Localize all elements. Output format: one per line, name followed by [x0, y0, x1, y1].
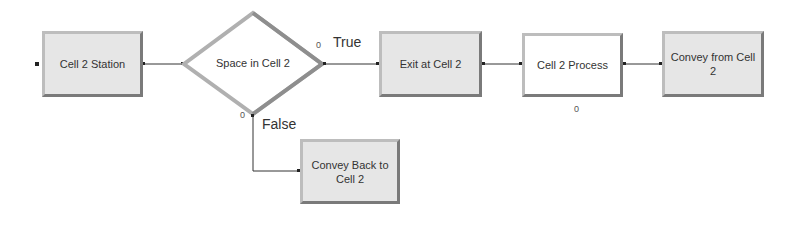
- cell-2-station-module[interactable]: Cell 2 Station: [42, 31, 143, 97]
- module-label: Exit at Cell 2: [400, 57, 462, 71]
- module-label: Cell 2 Station: [60, 57, 125, 71]
- decide-label: Space in Cell 2: [200, 57, 306, 69]
- entry-point: [35, 62, 39, 66]
- module-label: Cell 2 Process: [537, 58, 608, 72]
- exit-at-cell-2-module[interactable]: Exit at Cell 2: [379, 31, 482, 97]
- cell-2-process-module[interactable]: Cell 2 Process: [522, 33, 623, 97]
- module-label: Convey Back to Cell 2: [305, 158, 395, 186]
- process-count: 0: [574, 104, 579, 114]
- convey-from-cell-2-module[interactable]: Convey from Cell 2: [662, 31, 764, 97]
- convey-back-to-cell-2-module[interactable]: Convey Back to Cell 2: [300, 139, 400, 204]
- false-branch-label: False: [262, 116, 296, 132]
- true-branch-label: True: [333, 34, 361, 50]
- true-count: 0: [316, 40, 321, 50]
- false-count: 0: [240, 110, 245, 120]
- module-label: Convey from Cell 2: [667, 50, 759, 78]
